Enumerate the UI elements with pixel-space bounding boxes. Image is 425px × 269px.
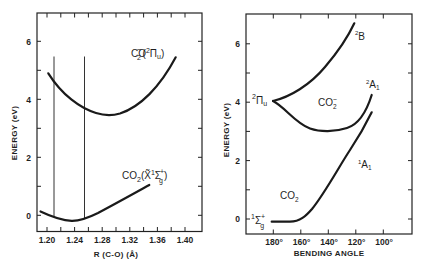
right-xtick-100: 100°: [375, 237, 393, 247]
left-xtick-1.20: 1.20: [39, 235, 56, 245]
left-xtick-1.32: 1.32: [122, 235, 139, 245]
sigma-g-state-label: 1Σ+g: [251, 213, 265, 230]
left-panel: 0 2 4 6 1.20 1.24 1.28 1.32 1.36 1.40 EN…: [10, 13, 202, 259]
1A1-curve: [272, 112, 372, 221]
neutral-potential-curve: [41, 185, 150, 221]
right-xtick-180: 180°: [265, 237, 283, 247]
left-ytick-6: 6: [26, 37, 31, 47]
right-xtick-160: 160°: [293, 237, 311, 247]
left-y-axis-label: ENERGY (eV): [10, 106, 19, 160]
neutral-state-label: CO2(X̃1Σ+g): [122, 168, 167, 185]
left-x-ticks: [47, 13, 185, 232]
anion-potential-curve: [48, 57, 175, 115]
right-x-axis-label: BENDING ANGLE: [294, 249, 365, 258]
2A1-label: 2A1: [366, 79, 380, 91]
left-ytick-0: 0: [26, 211, 31, 221]
left-xtick-1.28: 1.28: [94, 235, 111, 245]
left-xtick-1.24: 1.24: [66, 235, 83, 245]
right-ytick-0: 0: [235, 214, 240, 224]
figure: 0 2 4 6 1.20 1.24 1.28 1.32 1.36 1.40 EN…: [0, 0, 425, 269]
right-ytick-2: 2: [235, 156, 240, 166]
2B-label: 2B: [355, 30, 365, 42]
right-ytick-4: 4: [235, 97, 240, 107]
1A1-label: 1A1: [358, 159, 372, 171]
co2-neutral-label: CO2: [280, 190, 299, 203]
left-plot-frame: [37, 13, 202, 232]
anion-state-label: CO2−(2Πu): [131, 45, 164, 61]
2B-curve: [273, 23, 354, 101]
co2-anion-label: CO2−: [318, 96, 337, 110]
pi-u-state-label: 2Πu: [252, 93, 267, 107]
left-xtick-1.40: 1.40: [177, 235, 194, 245]
left-x-axis-label: R (C-O) (Å): [94, 250, 139, 259]
right-y-axis-label: ENERGY (eV): [222, 103, 231, 157]
right-xtick-140: 140°: [320, 237, 338, 247]
left-y-ticks: [37, 41, 202, 215]
right-ytick-6: 6: [235, 39, 240, 49]
left-ytick-4: 4: [26, 95, 31, 105]
right-panel: 0 2 4 6 180° 160° 140° 120° 100° ENERGY …: [222, 14, 412, 258]
left-xtick-1.36: 1.36: [149, 235, 166, 245]
right-plot-frame: [246, 14, 412, 234]
right-xtick-120: 120°: [348, 237, 366, 247]
left-ytick-2: 2: [26, 153, 31, 163]
